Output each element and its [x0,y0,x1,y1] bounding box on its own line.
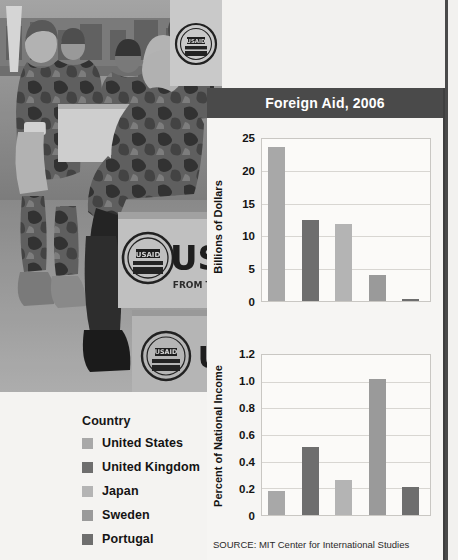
chart1-slot [329,139,363,301]
foreign-aid-chart-panel: Foreign Aid, 2006 Billions of Dollars 05… [207,88,446,560]
chart2-y-ticks: 00.20.40.60.81.01.2 [229,354,255,516]
chart2-y-axis-title: Percent of National Income [207,336,229,536]
legend-swatch-united-kingdom [82,462,93,473]
legend-label-sweden: Sweden [102,508,150,522]
chart2-bars [262,355,430,515]
chart2-slot [262,355,296,515]
chart1-slot [296,139,330,301]
chart-billions-of-dollars: Billions of Dollars 0510152025 [207,118,443,336]
legend-item-sweden: Sweden [82,508,150,522]
panel-title: Foreign Aid, 2006 [207,88,443,118]
photo-artwork: USAID US FROM TH USAID U [0,0,222,392]
chart1-tick-5: 5 [249,263,255,275]
legend-label-japan: Japan [102,484,139,498]
chart2-bar-japan [335,480,352,515]
chart1-y-axis-label: Billions of Dollars [212,180,224,274]
chart1-y-axis-title: Billions of Dollars [207,118,229,336]
chart2-plot-area [261,354,431,516]
chart1-bar-japan [335,224,352,301]
legend-swatch-united-states [82,438,93,449]
legend-swatch-portugal [82,534,93,545]
chart2-slot [363,355,397,515]
legend-item-portugal: Portugal [82,532,154,546]
chart1-slot [262,139,296,301]
chart-legend: Country United States United Kingdom Jap… [0,392,212,560]
chart1-bar-sweden [369,275,386,301]
page-root: USAID US FROM TH USAID U [0,0,458,560]
chart1-plot-area [261,138,431,302]
chart1-tick-10: 10 [242,230,255,242]
legend-swatch-japan [82,486,93,497]
chart1-tick-20: 20 [242,165,255,177]
chart2-bar-sweden [369,379,386,515]
chart1-slot [396,139,430,301]
chart1-bar-portugal [402,299,419,301]
legend-swatch-sweden [82,510,93,521]
page-right-edge [445,0,448,560]
chart1-bar-united-states [268,147,285,301]
chart-percent-of-national-income: Percent of National Income 00.20.40.60.8… [207,336,443,536]
chart2-tick-1.2: 1.2 [239,348,255,360]
chart2-bar-portugal [402,487,419,515]
chart2-tick-0.6: 0.6 [239,429,255,441]
legend-label-united-kingdom: United Kingdom [102,460,200,474]
chart2-tick-0.4: 0.4 [239,456,255,468]
legend-label-united-states: United States [102,436,183,450]
chart-source-note: SOURCE: MIT Center for International Stu… [213,539,409,550]
legend-label-portugal: Portugal [102,532,154,546]
chart2-slot [329,355,363,515]
chart1-bar-united-kingdom [302,220,319,301]
chart1-y-ticks: 0510152025 [229,138,255,302]
chart2-slot [296,355,330,515]
chart1-bars [262,139,430,301]
chart1-tick-15: 15 [242,198,255,210]
chart2-y-axis-label: Percent of National Income [212,365,224,507]
chart1-slot [363,139,397,301]
chart1-tick-25: 25 [242,132,255,144]
chart2-tick-1.0: 1.0 [239,375,255,387]
legend-item-united-states: United States [82,436,183,450]
legend-title: Country [82,414,131,428]
chart2-slot [396,355,430,515]
legend-item-japan: Japan [82,484,139,498]
chart2-tick-0.8: 0.8 [239,402,255,414]
usaid-relief-photo: USAID US FROM TH USAID U [0,0,222,392]
legend-item-united-kingdom: United Kingdom [82,460,200,474]
chart1-tick-0: 0 [249,296,255,308]
chart2-bar-united-states [268,491,285,515]
chart2-bar-united-kingdom [302,447,319,515]
chart2-tick-0: 0 [249,510,255,522]
chart2-tick-0.2: 0.2 [239,483,255,495]
